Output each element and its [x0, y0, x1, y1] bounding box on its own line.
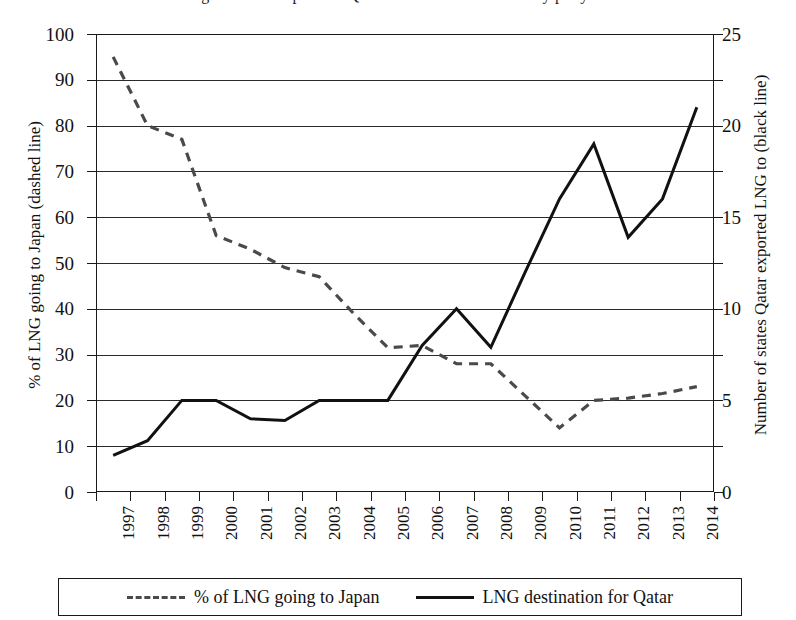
right-axis-minor-tick-mark	[714, 355, 723, 356]
right-axis-tick-mark	[714, 126, 723, 127]
x-axis-tick-label: 2012	[635, 506, 652, 540]
x-axis-tick-mark	[199, 492, 200, 501]
right-axis-tick-mark	[714, 217, 723, 218]
x-axis-tick-label: 2014	[704, 506, 721, 540]
chart-title: Figure: LNG exports of Qatar and destina…	[0, 0, 796, 4]
x-axis-tick-label: 2009	[532, 506, 549, 540]
right-axis-tick-label: 25	[722, 25, 782, 44]
legend-label: LNG destination for Qatar	[483, 587, 673, 608]
x-axis-tick-mark	[233, 492, 234, 501]
x-axis-tick-mark	[371, 492, 372, 501]
left-axis-tick-mark	[87, 126, 96, 127]
x-axis-tick-label: 1998	[155, 506, 172, 540]
left-axis-tick-mark	[87, 217, 96, 218]
left-axis-tick-mark	[87, 34, 96, 35]
left-axis-tick-label: 100	[14, 25, 74, 44]
x-axis-tick-label: 2000	[223, 506, 240, 540]
right-axis-tick-label: 10	[722, 299, 782, 318]
left-axis-tick-mark	[87, 80, 96, 81]
x-axis-tick-label: 2003	[326, 506, 343, 540]
x-axis-tick-mark	[542, 492, 543, 501]
x-axis-tick-mark	[439, 492, 440, 501]
legend-label: % of LNG going to Japan	[194, 587, 379, 608]
x-axis-tick-mark	[130, 492, 131, 501]
right-axis-tick-mark	[714, 492, 723, 493]
left-axis-tick-mark	[87, 263, 96, 264]
x-axis-tick-label: 1997	[120, 506, 137, 540]
left-axis-tick-mark	[87, 492, 96, 493]
right-axis-tick-label: 20	[722, 116, 782, 135]
x-axis-tick-label: 2006	[429, 506, 446, 540]
right-axis-tick-label: 5	[722, 391, 782, 410]
solid-line-swatch-icon	[416, 596, 474, 599]
left-axis-tick-mark	[87, 171, 96, 172]
x-axis-tick-label: 2008	[498, 506, 515, 540]
chart-legend: % of LNG going to JapanLNG destination f…	[58, 578, 742, 616]
right-axis-tick-label: 0	[722, 483, 782, 502]
right-axis-tick-mark	[714, 400, 723, 401]
chart-page: Figure: LNG exports of Qatar and destina…	[0, 0, 796, 620]
right-axis-tick-label: 15	[722, 208, 782, 227]
x-axis-tick-label: 2013	[670, 506, 687, 540]
x-axis-tick-mark	[268, 492, 269, 501]
x-axis-tick-mark	[577, 492, 578, 501]
left-axis-tick-mark	[87, 309, 96, 310]
left-axis-tick-label: 50	[14, 254, 74, 273]
x-axis-tick-mark	[508, 492, 509, 501]
x-axis-tick-label: 2010	[567, 506, 584, 540]
right-axis-minor-tick-mark	[714, 263, 723, 264]
x-axis-tick-label: 2011	[601, 506, 618, 539]
right-axis-minor-tick-mark	[714, 80, 723, 81]
x-axis-tick-mark	[645, 492, 646, 501]
x-axis-tick-label: 2001	[258, 506, 275, 540]
series-line-qatar-destinations	[113, 107, 697, 455]
x-axis-tick-label: 2004	[361, 506, 378, 540]
x-axis-tick-mark	[405, 492, 406, 501]
x-axis-tick-label: 1999	[189, 506, 206, 540]
x-axis-tick-mark	[611, 492, 612, 501]
left-axis-tick-label: 30	[14, 345, 74, 364]
x-axis-tick-mark	[96, 492, 97, 501]
left-axis-tick-mark	[87, 355, 96, 356]
right-axis-title: Number of states Qatar exported LNG to (…	[751, 25, 771, 485]
plot-area	[96, 34, 714, 492]
x-axis-tick-label: 2007	[464, 506, 481, 540]
legend-entry[interactable]: % of LNG going to Japan	[127, 587, 379, 608]
x-axis-tick-mark	[474, 492, 475, 501]
dashed-line-swatch-icon	[127, 596, 185, 599]
left-axis-tick-label: 70	[14, 162, 74, 181]
x-axis-tick-mark	[714, 492, 715, 501]
right-axis-minor-tick-mark	[714, 446, 723, 447]
x-axis-tick-mark	[336, 492, 337, 501]
left-axis-tick-label: 20	[14, 391, 74, 410]
x-axis-tick-mark	[680, 492, 681, 501]
right-axis-tick-mark	[714, 34, 723, 35]
left-axis-tick-label: 0	[14, 483, 74, 502]
left-axis-tick-mark	[87, 446, 96, 447]
left-axis-tick-label: 40	[14, 299, 74, 318]
right-axis-minor-tick-mark	[714, 171, 723, 172]
left-axis-tick-label: 10	[14, 437, 74, 456]
left-axis-tick-mark	[87, 400, 96, 401]
x-axis-tick-label: 2005	[395, 506, 412, 540]
left-axis-tick-label: 90	[14, 70, 74, 89]
series-layer	[96, 34, 714, 492]
right-axis-tick-mark	[714, 309, 723, 310]
legend-entry[interactable]: LNG destination for Qatar	[416, 587, 673, 608]
x-axis-tick-mark	[302, 492, 303, 501]
x-axis-tick-label: 2002	[292, 506, 309, 540]
left-axis-tick-label: 60	[14, 208, 74, 227]
x-axis-tick-mark	[165, 492, 166, 501]
left-axis-tick-label: 80	[14, 116, 74, 135]
